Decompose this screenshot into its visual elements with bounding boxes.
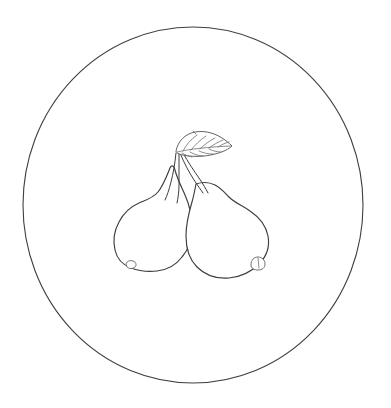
left-pear-blossom-nub	[126, 261, 136, 269]
pears-line-drawing	[0, 0, 391, 408]
illustration-canvas: Outline drawing of two pears joined at t…	[0, 0, 391, 408]
